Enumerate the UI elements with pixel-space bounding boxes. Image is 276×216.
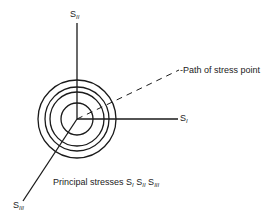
stress-path-dashed: [77, 70, 179, 119]
axis-label-s1: SI: [180, 114, 188, 124]
caption-s3-subscript: III: [154, 182, 159, 188]
path-of-stress-point-label: -Path of stress point: [180, 66, 260, 75]
axis-s2-subscript: II: [76, 14, 79, 20]
axis-label-s2: SII: [70, 10, 79, 20]
axis-s3-subscript: III: [19, 205, 24, 211]
caption-s1-subscript: I: [132, 182, 134, 188]
axis-s3: [23, 119, 77, 201]
axis-label-s3: SIII: [13, 201, 24, 211]
caption-s2-subscript: II: [142, 182, 145, 188]
principal-stresses-caption: Principal stresses SI SII SIII: [53, 178, 159, 188]
caption-prefix: Principal stresses: [53, 177, 126, 187]
axis-s1-subscript: I: [186, 118, 188, 124]
